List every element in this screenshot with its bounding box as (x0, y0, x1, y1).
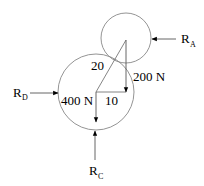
rd-subscript: D (22, 93, 28, 102)
rc-label: R (89, 163, 98, 178)
rc-subscript: C (98, 172, 103, 181)
force-diagram: 20 10 200 N 400 N R A R D R C (0, 0, 204, 186)
ra-subscript: A (190, 40, 196, 49)
rd-label: R (13, 85, 22, 100)
force-200-label: 200 N (133, 69, 166, 84)
hyp-label: 20 (91, 58, 104, 73)
base-label: 10 (105, 93, 118, 108)
force-400-label: 400 N (61, 93, 94, 108)
ra-label: R (181, 31, 190, 46)
